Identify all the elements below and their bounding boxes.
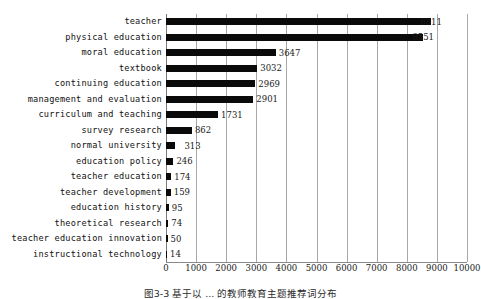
bar-row: 3032 — [166, 61, 467, 77]
bar-value-label: 14 — [170, 250, 181, 259]
x-tick-label-8000: 8000 — [396, 264, 418, 273]
bar-value-label: 3032 — [260, 64, 282, 73]
bar-value-label: 8551 — [412, 33, 434, 42]
bar-row: 246 — [166, 154, 467, 170]
bar-rows: 8811855136473032296929011731862313246174… — [166, 14, 467, 262]
category-label: normal university — [71, 138, 162, 154]
x-tick-label-3000: 3000 — [245, 264, 267, 273]
category-label: continuing education — [55, 76, 162, 92]
gridline-10000 — [467, 14, 468, 262]
category-label: teacher — [124, 14, 162, 30]
x-tick-label-2000: 2000 — [215, 264, 237, 273]
category-axis-labels: teacherphysical educationmoral education… — [0, 14, 162, 262]
bar-row: 3647 — [166, 45, 467, 61]
category-label: moral education — [81, 45, 162, 61]
plot-area: 8811855136473032296929011731862313246174… — [166, 14, 467, 262]
category-label: physical education — [65, 30, 162, 46]
bar-row: 8811 — [166, 14, 467, 30]
bar-value-label: 313 — [184, 142, 200, 151]
bar — [166, 96, 253, 103]
bar-value-label: 50 — [171, 235, 182, 244]
bar — [166, 189, 171, 196]
bar-row: 313 — [166, 138, 467, 154]
bar-row: 2969 — [166, 76, 467, 92]
bar-row: 95 — [166, 200, 467, 216]
x-tick-label-1000: 1000 — [185, 264, 207, 273]
bar — [166, 142, 175, 149]
figure-caption: 图3-3 基于以 ... 的教师教育主题推荐词分布 — [0, 288, 481, 299]
category-label: education history — [71, 200, 162, 216]
bar — [166, 49, 276, 56]
category-label: education policy — [76, 154, 162, 170]
bar — [166, 18, 431, 25]
bar — [166, 220, 168, 227]
x-tick-label-0: 0 — [163, 264, 168, 273]
bar — [166, 80, 255, 87]
bar-row: 862 — [166, 123, 467, 139]
category-label: management and evaluation — [28, 92, 162, 108]
category-label: instructional technology — [33, 247, 162, 263]
bar-row: 74 — [166, 216, 467, 232]
bar-value-label: 2901 — [256, 95, 278, 104]
bar-row: 2901 — [166, 92, 467, 108]
bar — [166, 34, 423, 41]
x-tick-label-7000: 7000 — [366, 264, 388, 273]
bar-value-label: 174 — [174, 173, 190, 182]
category-label: teacher development — [60, 185, 162, 201]
x-tick-label-5000: 5000 — [306, 264, 328, 273]
bar-value-label: 3647 — [279, 49, 301, 58]
bar — [166, 173, 171, 180]
bar — [166, 158, 173, 165]
bar-value-label: 159 — [174, 188, 190, 197]
category-label: survey research — [81, 123, 162, 139]
bar — [166, 111, 218, 118]
bar — [166, 235, 168, 242]
bar — [166, 127, 192, 134]
category-label: curriculum and teaching — [38, 107, 162, 123]
bar-value-label: 1731 — [221, 111, 243, 120]
bar-value-label: 2969 — [258, 80, 280, 89]
bar-row: 14 — [166, 247, 467, 263]
category-label: textbook — [119, 61, 162, 77]
bar — [166, 204, 169, 211]
x-tick-label-9000: 9000 — [426, 264, 448, 273]
bar-row: 174 — [166, 169, 467, 185]
bar — [166, 251, 167, 258]
bar-chart-figure: 8811855136473032296929011731862313246174… — [0, 0, 481, 299]
bar — [166, 65, 257, 72]
category-label: theoretical research — [55, 216, 162, 232]
category-label: teacher education — [71, 169, 162, 185]
bar-value-label: 8811 — [420, 18, 442, 27]
x-tick-label-6000: 6000 — [336, 264, 358, 273]
x-tick-label-10000: 10000 — [453, 264, 480, 273]
bar-value-label: 862 — [195, 126, 211, 135]
bar-value-label: 246 — [176, 157, 192, 166]
bar-row: 50 — [166, 231, 467, 247]
bar-value-label: 95 — [172, 204, 183, 213]
bar-row: 8551 — [166, 30, 467, 46]
bar-row: 1731 — [166, 107, 467, 123]
bar-row: 159 — [166, 185, 467, 201]
x-tick-label-4000: 4000 — [276, 264, 298, 273]
x-axis-tick-labels: 0100020003000400050006000700080009000100… — [0, 264, 481, 278]
category-label: teacher education innovation — [12, 231, 162, 247]
bar-value-label: 74 — [171, 219, 182, 228]
